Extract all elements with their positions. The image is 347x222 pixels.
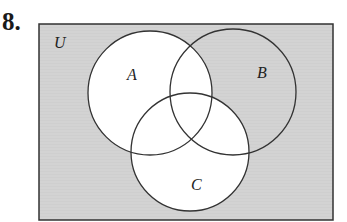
set-b-label: B [257, 64, 267, 81]
venn-diagram: U A B C [0, 0, 347, 222]
universe-label: U [54, 34, 67, 51]
set-c-label: C [191, 176, 202, 193]
set-a-label: A [126, 66, 137, 83]
